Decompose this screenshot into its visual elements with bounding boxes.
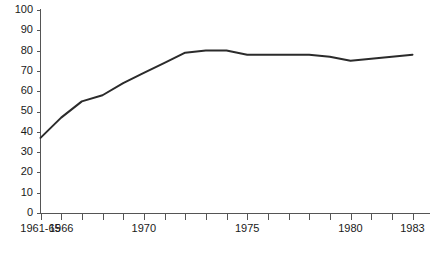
y-tick-label: 30 xyxy=(21,145,33,157)
y-tick-label: 50 xyxy=(21,104,33,116)
x-tick-label: 1983 xyxy=(400,222,424,234)
x-tick-label: 1975 xyxy=(235,222,259,234)
y-axis-tick-marks xyxy=(37,11,41,214)
y-tick-label: 40 xyxy=(21,125,33,137)
y-tick-label: 10 xyxy=(21,186,33,198)
y-tick-label: 60 xyxy=(21,84,33,96)
y-tick-label: 20 xyxy=(21,165,33,177)
x-tick-label: 1966 xyxy=(49,222,73,234)
figure-caption xyxy=(0,245,439,253)
y-axis-tick-labels: 0102030405060708090100 xyxy=(15,3,33,218)
line-chart: 0102030405060708090100 1961-651966197019… xyxy=(0,0,439,253)
y-tick-label: 90 xyxy=(21,23,33,35)
y-tick-label: 70 xyxy=(21,64,33,76)
y-tick-label: 80 xyxy=(21,44,33,56)
y-tick-label: 0 xyxy=(27,206,33,218)
x-axis-tick-labels: 1961-6519661970197519801983 xyxy=(20,222,424,234)
data-series-line xyxy=(41,51,413,138)
y-tick-label: 100 xyxy=(15,3,33,15)
x-axis-tick-marks xyxy=(42,214,414,220)
chart-figure: 0102030405060708090100 1961-651966197019… xyxy=(0,0,439,253)
x-tick-label: 1980 xyxy=(338,222,362,234)
x-tick-label: 1970 xyxy=(132,222,156,234)
